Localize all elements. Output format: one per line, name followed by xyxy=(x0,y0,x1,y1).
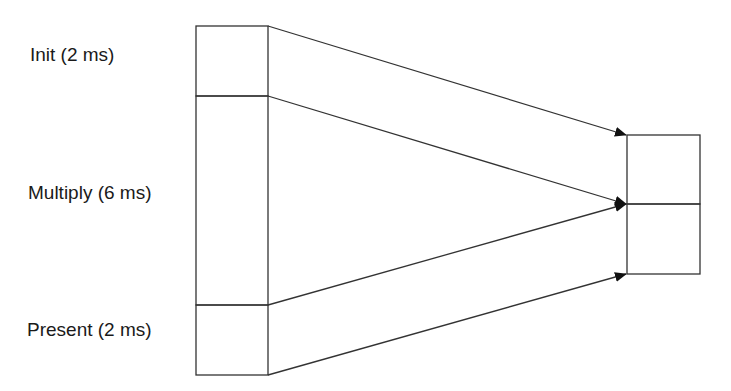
arrows xyxy=(268,26,626,375)
arrow-multiply-bottom-icon xyxy=(268,204,626,305)
arrow-init-icon xyxy=(268,26,626,135)
target-box-top xyxy=(627,135,700,204)
stage-box-multiply xyxy=(196,96,268,305)
pipeline-diagram xyxy=(0,0,731,391)
stage-box-present xyxy=(196,305,268,375)
arrow-multiply-top-icon xyxy=(268,96,626,204)
target-box-bottom xyxy=(627,204,700,274)
stage-box-init xyxy=(196,26,268,96)
target-column xyxy=(627,135,700,274)
arrow-present-icon xyxy=(268,274,626,375)
source-column xyxy=(196,26,268,375)
